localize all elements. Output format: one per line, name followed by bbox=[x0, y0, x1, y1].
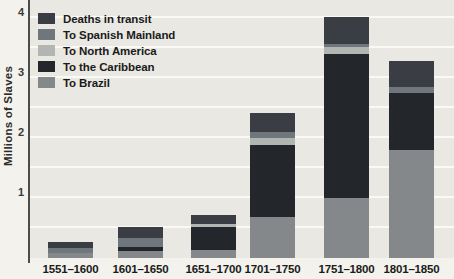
x-tick-label: 1801–1850 bbox=[370, 263, 454, 275]
bar-segment-north_america bbox=[250, 138, 295, 145]
legend-label: To North America bbox=[63, 45, 157, 57]
bar-segment-spanish_mainland bbox=[118, 238, 163, 247]
legend-label: Deaths in transit bbox=[63, 13, 151, 25]
legend: Deaths in transitTo Spanish MainlandTo N… bbox=[38, 13, 175, 93]
legend-swatch-north_america bbox=[38, 45, 55, 56]
bar-segment-north_america bbox=[324, 47, 369, 54]
bar-segment-deaths bbox=[389, 61, 434, 87]
chart-container: Millions of Slaves Deaths in transitTo S… bbox=[0, 0, 454, 279]
x-tick-label: 1601–1650 bbox=[99, 263, 183, 275]
bar-1651–1700 bbox=[191, 215, 236, 258]
bar-segment-brazil bbox=[250, 217, 295, 258]
legend-item: To Brazil bbox=[38, 77, 175, 88]
y-tick-label: 1 bbox=[0, 186, 24, 198]
bar-segment-deaths bbox=[118, 227, 163, 238]
legend-swatch-brazil bbox=[38, 77, 55, 88]
y-tick-label: 3 bbox=[0, 66, 24, 78]
bar-1551–1600 bbox=[48, 242, 93, 258]
bar-segment-caribbean bbox=[389, 93, 434, 150]
legend-item: To North America bbox=[38, 45, 175, 56]
bar-segment-deaths bbox=[324, 17, 369, 44]
bar-segment-deaths bbox=[250, 113, 295, 132]
bar-1751–1800 bbox=[324, 17, 369, 258]
bar-1601–1650 bbox=[118, 227, 163, 258]
legend-item: To the Caribbean bbox=[38, 61, 175, 72]
bar-segment-brazil bbox=[389, 150, 434, 258]
legend-label: To Spanish Mainland bbox=[63, 29, 175, 41]
legend-label: To the Caribbean bbox=[63, 61, 154, 73]
bar-segment-brazil bbox=[191, 250, 236, 258]
bar-segment-caribbean bbox=[250, 145, 295, 217]
bar-segment-brazil bbox=[118, 251, 163, 258]
bar-segment-caribbean bbox=[191, 227, 236, 250]
bar-segment-deaths bbox=[48, 242, 93, 249]
legend-swatch-spanish_mainland bbox=[38, 29, 55, 40]
x-tick-label: 1701–1750 bbox=[231, 263, 315, 275]
y-tick-label: 4 bbox=[0, 6, 24, 18]
bar-segment-caribbean bbox=[324, 54, 369, 198]
legend-item: Deaths in transit bbox=[38, 13, 175, 24]
y-axis-title: Millions of Slaves bbox=[2, 66, 14, 166]
legend-swatch-caribbean bbox=[38, 61, 55, 72]
y-axis-line bbox=[28, 0, 30, 263]
bar-1701–1750 bbox=[250, 113, 295, 258]
bar-1801–1850 bbox=[389, 61, 434, 258]
bar-segment-deaths bbox=[191, 215, 236, 224]
legend-label: To Brazil bbox=[63, 77, 110, 89]
y-tick-label: 2 bbox=[0, 126, 24, 138]
legend-item: To Spanish Mainland bbox=[38, 29, 175, 40]
legend-swatch-deaths bbox=[38, 13, 55, 24]
bar-segment-brazil bbox=[48, 253, 93, 258]
bar-segment-brazil bbox=[324, 198, 369, 258]
